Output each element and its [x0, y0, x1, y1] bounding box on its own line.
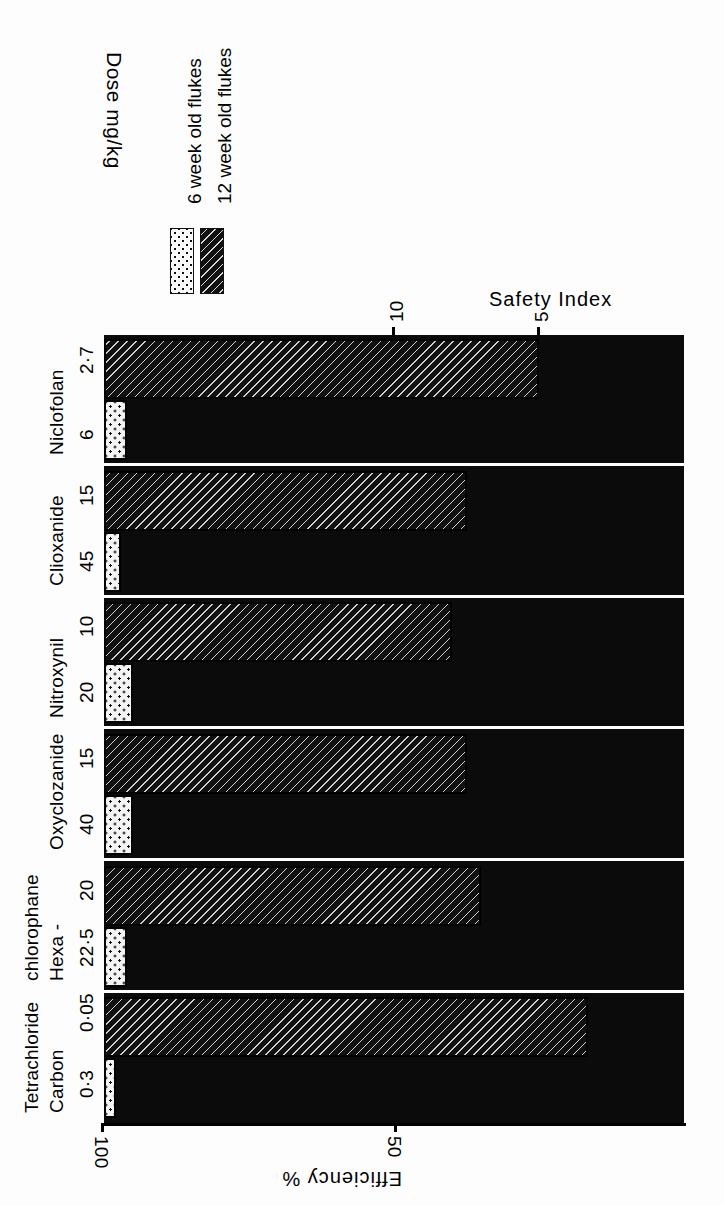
category-label-carbon-tetrachloride: Carbon — [46, 1049, 68, 1113]
bar-6-week-flukes — [104, 927, 127, 987]
dose-label-6-week: 20 — [76, 682, 98, 704]
dose-label-12-week: 15 — [76, 747, 98, 769]
safety-ticklabel-5: 5 — [531, 311, 553, 322]
bar-12-week-flukes — [104, 471, 467, 531]
bar-group — [104, 993, 684, 1125]
group-separator — [104, 858, 684, 861]
bar-12-week-flukes — [104, 866, 481, 926]
bar-6-week-flukes — [104, 663, 133, 723]
group-separator — [104, 463, 684, 466]
efficiency-axis-title: Efficiency % — [281, 1167, 402, 1190]
bar-6-week-flukes — [104, 795, 133, 855]
group-separator — [104, 726, 684, 729]
category-label-carbon-tetrachloride: Tetrachloride — [21, 1002, 43, 1113]
category-label-hexachlorophane: chlorophane — [21, 875, 43, 982]
plot-area — [104, 335, 684, 1125]
category-label-nitroxynil: Nitroxynil — [46, 638, 68, 718]
dose-label-12-week: 10 — [76, 616, 98, 638]
bar-group — [104, 862, 684, 994]
figure-root: Dose mg/kg 6 week old flukes 12 week old… — [0, 0, 724, 1206]
bar-12-week-flukes — [104, 997, 588, 1057]
dose-label-12-week: 2·7 — [76, 346, 98, 374]
bar-group — [104, 467, 684, 599]
dose-label-12-week: 20 — [76, 879, 98, 901]
category-label-oxyclozanide: Oxyclozanide — [46, 733, 68, 849]
efficiency-tick-100 — [101, 1123, 104, 1132]
dose-label-12-week: 0·05 — [76, 994, 98, 1033]
bar-group — [104, 598, 684, 730]
bar-12-week-flukes — [104, 734, 467, 794]
efficiency-tick-50 — [394, 1123, 397, 1132]
safety-axis-title: Safety Index — [489, 288, 612, 311]
category-label-hexachlorophane: Hexa - — [46, 924, 68, 981]
legend-title: Dose mg/kg — [102, 52, 126, 169]
bar-group — [104, 730, 684, 862]
efficiency-ticklabel-50: 50 — [383, 1136, 405, 1158]
bar-12-week-flukes — [104, 602, 452, 662]
category-label-clioxanide: Clioxanide — [46, 496, 68, 587]
category-label-niclofolan: Niclofolan — [46, 369, 68, 454]
dose-label-12-week: 15 — [76, 484, 98, 506]
safety-ticklabel-10: 10 — [386, 300, 408, 322]
dose-label-6-week: 0·3 — [76, 1070, 98, 1098]
bar-6-week-flukes — [104, 532, 121, 592]
bar-6-week-flukes — [104, 400, 127, 460]
legend-label-12-week: 12 week old flukes — [214, 48, 236, 204]
legend-swatch-6-week — [170, 228, 194, 294]
dose-label-6-week: 6 — [76, 429, 98, 440]
legend-label-6-week: 6 week old flukes — [184, 58, 206, 204]
dose-label-6-week: 40 — [76, 813, 98, 835]
legend-swatch-12-week — [200, 228, 224, 294]
dose-label-6-week: 45 — [76, 550, 98, 572]
bar-6-week-flukes — [104, 1058, 116, 1118]
efficiency-ticklabel-100: 100 — [90, 1136, 112, 1169]
legend: Dose mg/kg 6 week old flukes 12 week old… — [126, 52, 246, 302]
bar-group — [104, 335, 684, 467]
bar-12-week-flukes — [104, 339, 539, 399]
dose-label-6-week: 22·5 — [76, 928, 98, 967]
